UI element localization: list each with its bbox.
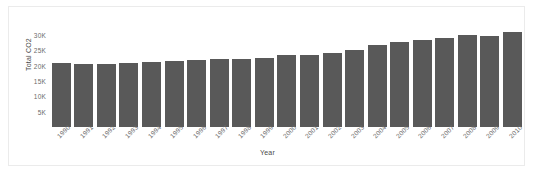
bar-1993[interactable]	[119, 63, 138, 127]
bar-1999[interactable]	[255, 58, 274, 127]
bar-slot	[343, 29, 366, 127]
bar-slot	[95, 29, 118, 127]
bar-2003[interactable]	[345, 50, 364, 127]
bar-1997[interactable]	[210, 59, 229, 127]
bar-1991[interactable]	[74, 64, 93, 127]
plot-area	[50, 29, 524, 127]
bar-slot	[388, 29, 411, 127]
bar-slot	[50, 29, 73, 127]
bar-1994[interactable]	[142, 62, 161, 127]
bar-slot	[479, 29, 502, 127]
y-tick-label: 20K	[34, 62, 46, 69]
bar-slot	[231, 29, 254, 127]
bar-2006[interactable]	[413, 40, 432, 127]
bar-2008[interactable]	[458, 35, 477, 127]
bar-slot	[253, 29, 276, 127]
bar-slot	[163, 29, 186, 127]
bar-2002[interactable]	[323, 53, 342, 127]
bar-slot	[140, 29, 163, 127]
bar-1990[interactable]	[52, 63, 71, 127]
y-tick-label: 10K	[34, 93, 46, 100]
bar-1996[interactable]	[187, 60, 206, 127]
bar-2000[interactable]	[277, 55, 296, 127]
bar-slot	[208, 29, 231, 127]
bar-1995[interactable]	[165, 61, 184, 127]
bar-2007[interactable]	[435, 38, 454, 127]
bar-slot	[321, 29, 344, 127]
y-tick-label: 25K	[34, 47, 46, 54]
bar-series	[50, 29, 524, 127]
bar-slot	[185, 29, 208, 127]
bar-2009[interactable]	[480, 36, 499, 127]
bar-slot	[298, 29, 321, 127]
bar-slot	[118, 29, 141, 127]
bar-slot	[276, 29, 299, 127]
bar-slot	[501, 29, 524, 127]
chart-card: Total CO2 5K10K15K20K25K30K 199019911992…	[8, 6, 525, 166]
bar-1992[interactable]	[97, 64, 116, 127]
y-tick-label: 30K	[34, 32, 46, 39]
y-tick-label: 5K	[38, 108, 46, 115]
bar-slot	[434, 29, 457, 127]
x-axis-title: Year	[9, 149, 526, 156]
bar-2001[interactable]	[300, 55, 319, 127]
bar-2004[interactable]	[368, 45, 387, 127]
bar-2010[interactable]	[503, 32, 522, 127]
bar-1998[interactable]	[232, 59, 251, 127]
y-tick-label: 15K	[34, 78, 46, 85]
bar-slot	[411, 29, 434, 127]
bar-slot	[73, 29, 96, 127]
bar-slot	[366, 29, 389, 127]
bar-slot	[456, 29, 479, 127]
bar-2005[interactable]	[390, 42, 409, 127]
y-axis-tick-labels: 5K10K15K20K25K30K	[9, 7, 50, 167]
